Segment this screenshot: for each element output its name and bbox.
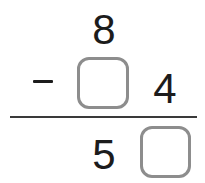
answer-box-difference-ones[interactable] [140,126,191,178]
subtrahend-ones-digit: 4 [143,68,187,110]
minus-operator-icon [33,80,53,83]
answer-box-subtrahend-tens[interactable] [77,57,129,109]
answer-rule-divider [10,116,197,118]
difference-tens-digit: 5 [82,134,126,176]
minuend-digit: 8 [82,9,126,51]
subtraction-problem: 8 4 5 [0,0,205,183]
